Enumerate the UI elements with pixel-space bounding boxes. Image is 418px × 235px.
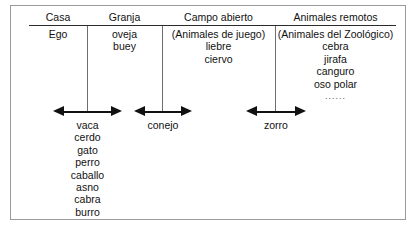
entry-oveja: oveja xyxy=(87,28,162,40)
boundary-list-granja-campo: conejo xyxy=(134,119,192,131)
entry-burro: burro xyxy=(53,206,122,218)
column-header-casa: Casa xyxy=(29,10,87,24)
column-body-animales-remotos: (Animales del Zoológico) cebra jirafa ca… xyxy=(275,28,396,102)
figure-panel: Casa Granja Campo abierto Animales remot… xyxy=(10,5,406,220)
entry-vaca: vaca xyxy=(53,119,122,131)
boundary-arrow-granja-campo xyxy=(134,106,192,117)
entry-gato: gato xyxy=(53,144,122,156)
entry-conejo: conejo xyxy=(134,119,192,131)
column-header-animales-remotos: Animales remotos xyxy=(275,10,396,24)
entry-oso-polar: oso polar xyxy=(275,78,396,90)
boundary-list-campo-remotos: zorro xyxy=(246,119,306,131)
entry-animales-del-zoologico: (Animales del Zoológico) xyxy=(275,28,396,40)
entry-liebre: liebre xyxy=(162,40,275,52)
entry-zorro: zorro xyxy=(246,119,306,131)
boundary-arrow-campo-remotos xyxy=(246,106,306,117)
entry-cabra: cabra xyxy=(53,193,122,205)
entry-caballo: caballo xyxy=(53,169,122,181)
entry-buey: buey xyxy=(87,40,162,52)
boundary-list-casa-granja: vaca cerdo gato perro caballo asno cabra… xyxy=(53,119,122,218)
header-underline xyxy=(29,25,396,26)
column-body-campo-abierto: (Animales de juego) liebre ciervo xyxy=(162,28,275,65)
entry-ego: Ego xyxy=(29,28,87,40)
arrow-shaft xyxy=(60,111,115,113)
arrow-right-head-icon xyxy=(181,106,192,116)
entry-cebra: cebra xyxy=(275,40,396,52)
entry-jirafa: jirafa xyxy=(275,53,396,65)
column-header-campo-abierto: Campo abierto xyxy=(162,10,275,24)
column-header-granja: Granja xyxy=(87,10,162,24)
entry-ellipsis: ...... xyxy=(275,90,396,102)
arrow-right-head-icon xyxy=(111,106,122,116)
entry-animales-de-juego: (Animales de juego) xyxy=(162,28,275,40)
arrow-shaft xyxy=(253,111,299,113)
arrow-right-head-icon xyxy=(295,106,306,116)
entry-perro: perro xyxy=(53,156,122,168)
entry-cerdo: cerdo xyxy=(53,131,122,143)
entry-canguro: canguro xyxy=(275,65,396,77)
boundary-arrow-casa-granja xyxy=(53,106,122,117)
arrow-shaft xyxy=(141,111,185,113)
entry-asno: asno xyxy=(53,181,122,193)
entry-ciervo: ciervo xyxy=(162,53,275,65)
column-body-casa: Ego xyxy=(29,28,87,40)
column-body-granja: oveja buey xyxy=(87,28,162,53)
